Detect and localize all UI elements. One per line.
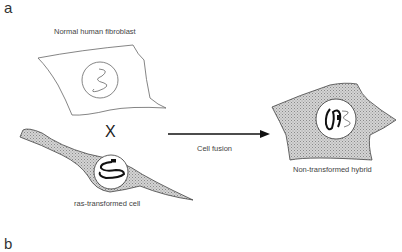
hybrid-cell	[272, 83, 396, 160]
panel-label-a: a	[4, 0, 12, 16]
normal-fibroblast-cell	[38, 45, 166, 115]
cell-fusion-arrow	[168, 130, 270, 138]
normal-fibroblast-label: Normal human fibroblast	[54, 27, 136, 36]
hybrid-label: Non-transformed hybrid	[293, 165, 372, 174]
ras-transformed-label: ras-transformed cell	[74, 199, 140, 208]
diagram-canvas: X	[0, 0, 402, 252]
cell-fusion-label: Cell fusion	[197, 144, 232, 153]
cross-symbol: X	[105, 123, 116, 140]
panel-label-b: b	[4, 235, 12, 252]
